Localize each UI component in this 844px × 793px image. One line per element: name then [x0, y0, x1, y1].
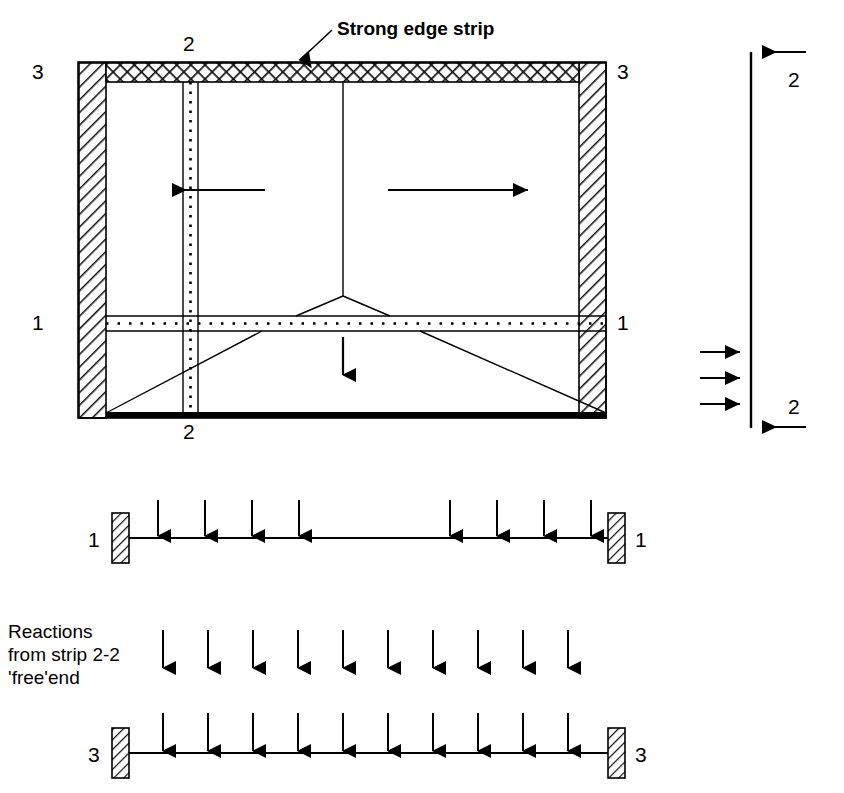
strip33-right-support [608, 728, 625, 778]
strip11-mark-left: 1 [88, 527, 100, 553]
strong-edge-strip-leader [300, 30, 332, 60]
section-mark-right-1: 1 [617, 310, 629, 336]
strip11-right-support [608, 513, 625, 563]
strip11-mark-right: 1 [635, 527, 647, 553]
engineering-diagram-canvas: Strong edge strip Reactions from strip 2… [0, 0, 844, 793]
strip22-side-group [700, 52, 806, 428]
right-support-hatch [579, 63, 606, 418]
section-mark-top-2: 2 [183, 31, 195, 57]
section-mark-left-3: 3 [32, 59, 44, 85]
strong-edge-strip-band [106, 63, 579, 82]
reactions-note-label: Reactions from strip 2-2 'free'end [8, 620, 120, 690]
strip33-mark-left: 3 [88, 742, 100, 768]
section-mark-left-1: 1 [32, 310, 44, 336]
strip33-mark-right: 3 [635, 742, 647, 768]
side-mark-top-2: 2 [788, 67, 800, 93]
strong-edge-strip-label: Strong edge strip [337, 17, 494, 40]
slab-plan-group [78, 30, 606, 418]
left-support-hatch [79, 63, 106, 418]
strip33-group [112, 713, 625, 778]
strip33-load-arrows [163, 713, 568, 751]
strip11-group [112, 500, 625, 563]
strip11-left-support [112, 513, 129, 563]
strip33-left-support [112, 728, 129, 778]
side-mark-bottom-2: 2 [788, 394, 800, 420]
reaction-row-arrows [163, 630, 568, 668]
diagram-vector-layer [0, 0, 844, 793]
section-mark-right-3: 3 [617, 59, 629, 85]
section-mark-bottom-2: 2 [183, 419, 195, 445]
strip11-load-arrows [158, 500, 591, 536]
